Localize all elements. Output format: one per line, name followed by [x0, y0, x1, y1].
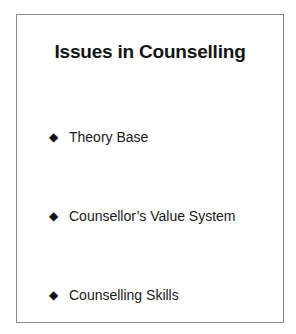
list-item-label: Counsellor’s Value System [69, 208, 236, 224]
list-item-label: Theory Base [69, 129, 148, 145]
slide-frame: Issues in Counselling ◆ Theory Base ◆ Co… [16, 14, 284, 323]
slide-title: Issues in Counselling [17, 41, 283, 63]
list-item: ◆ Counsellor’s Value System [49, 208, 236, 224]
list-item: ◆ Counselling Skills [49, 287, 179, 303]
list-item-label: Counselling Skills [69, 287, 179, 303]
list-item: ◆ Theory Base [49, 129, 148, 145]
diamond-bullet-icon: ◆ [49, 288, 69, 302]
diamond-bullet-icon: ◆ [49, 130, 69, 144]
diamond-bullet-icon: ◆ [49, 209, 69, 223]
